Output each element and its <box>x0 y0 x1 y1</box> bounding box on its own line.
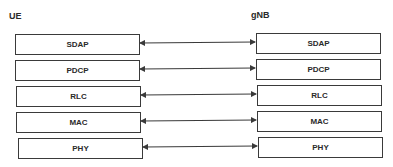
mac-arrow <box>141 120 256 121</box>
pdcp-arrow <box>140 68 255 69</box>
sdap-arrow <box>140 42 255 43</box>
phy-arrow <box>143 146 257 147</box>
connection-arrows <box>0 0 393 167</box>
rlc-arrow <box>141 94 256 95</box>
